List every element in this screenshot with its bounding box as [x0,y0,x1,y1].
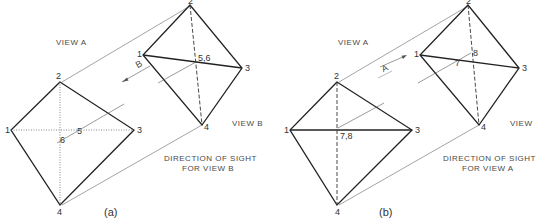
direction-caption-line2-b: FOR VIEW A [462,165,514,173]
view-b-label: VIEW B [232,120,263,128]
view-a-label: VIEW A [56,39,87,47]
panel-a-geometry [11,5,242,205]
panel-b-geometry [290,5,519,205]
vertex-label-1-view-b-b: 1 [414,50,419,59]
point-label-8: 8 [473,49,478,58]
point-label-5: 5 [77,127,82,136]
vertex-label-4: 4 [57,208,62,217]
direction-caption-line1-b: DIRECTION OF SIGHT [443,155,536,163]
panel-b-caption: (b) [379,207,392,218]
vertex-label-3: 3 [137,126,142,135]
point-label-5-6: 5,6 [198,54,211,63]
direction-caption-line2: FOR VIEW B [182,165,234,173]
vertex-label-4-view-b-b: 4 [481,123,486,132]
vertex-label-3-b: 3 [415,126,420,135]
vertex-label-2-view-b-b: 2 [466,0,471,6]
vertex-label-2-b: 2 [334,72,339,81]
vertex-label-1-view-b: 1 [137,50,142,59]
vertex-label-2-view-b: 2 [188,0,193,6]
direction-caption-line1: DIRECTION OF SIGHT [164,155,257,163]
vertex-label-3-view-b-b: 3 [522,64,527,73]
panel-a-caption: (a) [104,207,117,218]
point-label-7-8: 7,8 [340,132,353,141]
diagram-lines [0,0,537,223]
vertex-label-1-b: 1 [284,126,289,135]
vertex-label-4-view-b: 4 [204,123,209,132]
view-a-label-b: VIEW A [338,39,369,47]
point-label-6: 6 [60,136,65,145]
diagram-canvas: VIEW A VIEW B DIRECTION OF SIGHT FOR VIE… [0,0,537,223]
vertex-label-1: 1 [5,126,10,135]
vertex-label-2: 2 [56,72,61,81]
view-b-label-b: VIEW [510,120,532,128]
point-label-7: 7 [455,59,460,68]
vertex-label-4-b: 4 [335,208,340,217]
vertex-label-3-view-b: 3 [245,64,250,73]
